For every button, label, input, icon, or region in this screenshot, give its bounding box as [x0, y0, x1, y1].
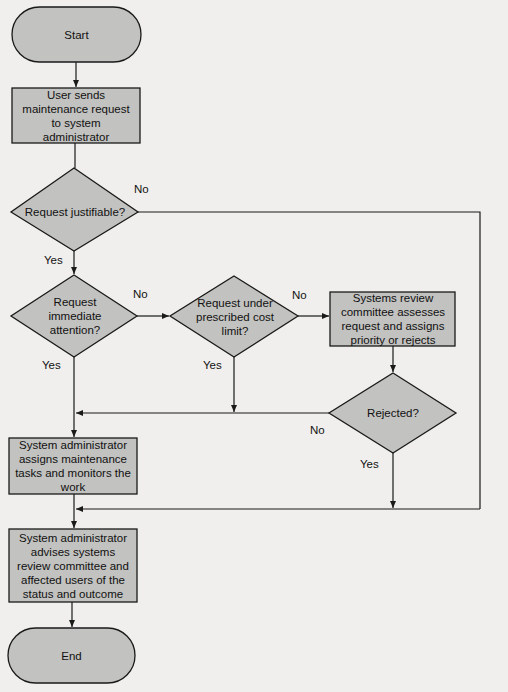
cost-yes-label: Yes: [203, 359, 222, 371]
justifiable-yes-label: Yes: [44, 254, 63, 266]
justifiable-label: Request justifiable?: [24, 196, 126, 228]
cost-no-label: No: [292, 289, 307, 301]
assign-label: System administrator assigns maintenance…: [14, 438, 132, 494]
rejected-yes-label: Yes: [360, 458, 379, 470]
immediate-yes-label: Yes: [42, 359, 61, 371]
flowchart-canvas: Start User sends maintenance request to …: [0, 0, 508, 692]
start-label: Start: [12, 7, 141, 62]
committee-label: Systems review committee assesses reques…: [333, 292, 453, 346]
end-label: End: [8, 628, 135, 683]
user-request-label: User sends maintenance request to system…: [18, 88, 134, 143]
cost-limit-label: Request under prescribed cost limit?: [196, 293, 274, 341]
advise-label: System administrator advises systems rev…: [13, 529, 133, 602]
immediate-no-label: No: [133, 288, 148, 300]
justifiable-no-label: No: [134, 183, 149, 195]
immediate-label: Request immediate attention?: [26, 299, 124, 333]
rejected-no-label: No: [310, 424, 325, 436]
rejected-label: Rejected?: [353, 404, 433, 422]
